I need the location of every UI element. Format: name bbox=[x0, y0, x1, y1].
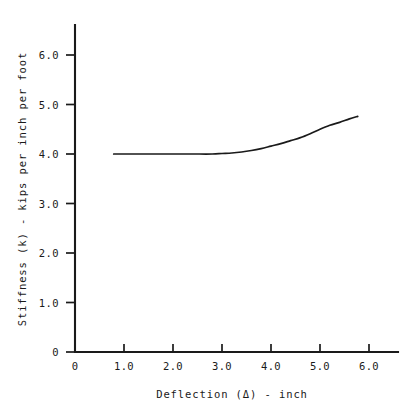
x-tick-label: 0 bbox=[72, 360, 79, 372]
y-tick-label: 4.0 bbox=[39, 148, 59, 160]
data-series-group bbox=[114, 116, 358, 154]
y-tick-label: 5.0 bbox=[39, 99, 59, 111]
x-axis-title: Deflection (Δ) - inch bbox=[156, 388, 308, 400]
y-axis-ticks bbox=[66, 55, 75, 352]
y-tick-label: 6.0 bbox=[39, 49, 59, 61]
x-tick-label: 4.0 bbox=[261, 360, 281, 372]
x-tick-label: 1.0 bbox=[114, 360, 134, 372]
stiffness-deflection-chart: 0 1.0 2.0 3.0 4.0 5.0 6.0 0 1.0 2.0 3.0 … bbox=[0, 0, 418, 419]
x-tick-label: 3.0 bbox=[212, 360, 232, 372]
axes-group bbox=[75, 25, 398, 352]
x-tick-label: 2.0 bbox=[163, 360, 183, 372]
x-axis-ticks bbox=[75, 344, 369, 352]
y-tick-label: 1.0 bbox=[39, 297, 59, 309]
y-tick-label: 0 bbox=[52, 346, 59, 358]
x-axis-tick-labels: 0 1.0 2.0 3.0 4.0 5.0 6.0 bbox=[72, 360, 379, 372]
y-axis-title: Stiffness (k) - kips per inch per foot bbox=[16, 52, 28, 326]
y-tick-label: 2.0 bbox=[39, 247, 59, 259]
x-tick-label: 5.0 bbox=[310, 360, 330, 372]
y-axis-tick-labels: 0 1.0 2.0 3.0 4.0 5.0 6.0 bbox=[39, 49, 59, 358]
y-tick-label: 3.0 bbox=[39, 198, 59, 210]
x-tick-label: 6.0 bbox=[359, 360, 379, 372]
stiffness-curve-line bbox=[114, 116, 358, 154]
